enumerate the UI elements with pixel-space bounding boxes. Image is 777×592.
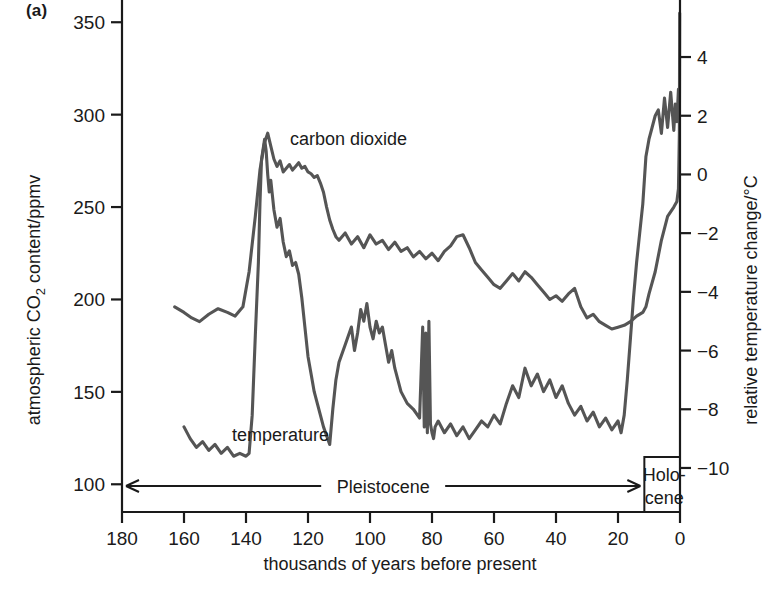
left-tick-label: 350: [73, 12, 105, 33]
bottom-tick-label: 140: [230, 528, 262, 549]
bottom-tick-label: 20: [607, 528, 628, 549]
bottom-tick-label: 0: [675, 528, 686, 549]
panel-label: (a): [26, 1, 47, 21]
bottom-tick-label: 60: [483, 528, 504, 549]
right-tick-label: −10: [697, 458, 729, 479]
series-label-carbon-dioxide: carbon dioxide: [290, 129, 407, 149]
right-axis-title: relative temperature change/°C: [741, 175, 761, 424]
left-tick-label: 200: [73, 289, 105, 310]
series-path-carbon-dioxide: [175, 13, 680, 329]
left-tick-label: 300: [73, 105, 105, 126]
data-curves: [175, 13, 680, 456]
left-tick-label: 100: [73, 474, 105, 495]
left-axis-title: atmospheric CO2 content/ppmv: [24, 175, 48, 425]
bottom-tick-label: 160: [168, 528, 200, 549]
left-axis-ticks: 100150200250300350: [73, 12, 122, 495]
bottom-tick-label: 120: [292, 528, 324, 549]
left-tick-label: 250: [73, 197, 105, 218]
right-tick-label: 0: [697, 164, 708, 185]
bottom-axis-title: thousands of years before present: [263, 554, 536, 574]
right-axis-ticks: −10−8−6−4−2024: [680, 47, 729, 479]
bottom-tick-label: 180: [106, 528, 138, 549]
bottom-tick-label: 40: [545, 528, 566, 549]
holocene-label-line1: Holo-: [643, 465, 686, 485]
right-tick-label: 2: [697, 106, 708, 127]
epoch-annotations: Holo-cenePleistocene: [126, 457, 686, 512]
bottom-axis-ticks: 180160140120100806040200: [106, 512, 685, 549]
right-tick-label: −2: [697, 223, 719, 244]
holocene-label-line2: cene: [645, 488, 684, 508]
right-tick-label: −6: [697, 341, 719, 362]
bottom-tick-label: 80: [421, 528, 442, 549]
pleistocene-label: Pleistocene: [337, 477, 430, 497]
bottom-tick-label: 100: [354, 528, 386, 549]
figure-panel-a: (a) 100150200250300350 −10−8−6−4−2024 18…: [0, 0, 777, 592]
left-tick-label: 150: [73, 382, 105, 403]
co2-temperature-chart: 100150200250300350 −10−8−6−4−2024 180160…: [0, 0, 777, 592]
right-tick-label: −8: [697, 399, 719, 420]
series-label-temperature: temperature: [232, 425, 329, 445]
right-tick-label: 4: [697, 47, 708, 68]
series-path-temperature: [184, 89, 679, 456]
right-tick-label: −4: [697, 282, 719, 303]
